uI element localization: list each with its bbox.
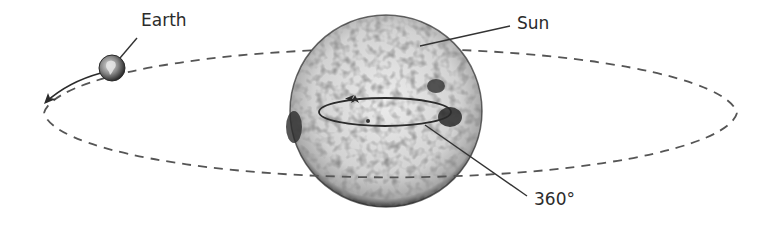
sun-label: Sun	[517, 15, 549, 32]
sunspot	[366, 119, 370, 123]
rotation-label: 360°	[534, 191, 575, 208]
sunspot	[427, 79, 445, 93]
diagram-canvas	[0, 0, 774, 225]
earth-label: Earth	[141, 12, 187, 29]
sunspot	[286, 111, 302, 143]
earth-leader-line	[120, 38, 137, 58]
earth-orbit-arrow	[46, 73, 101, 102]
sun-sphere-icon	[286, 15, 482, 207]
earth-globe-icon	[99, 55, 125, 81]
